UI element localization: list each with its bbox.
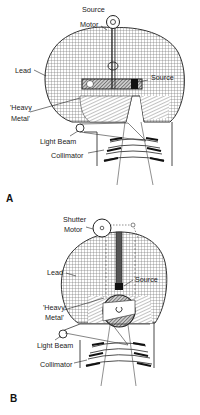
source-motor-a: [107, 16, 120, 29]
label-collimator-a: Collimator: [51, 151, 84, 160]
panel-label-a: A: [6, 193, 13, 204]
source-b: [115, 283, 123, 290]
panel-label-b: B: [10, 393, 17, 404]
source-rod-b: [116, 232, 122, 284]
label-heavy-metal-a-2: Metal': [11, 114, 31, 123]
collimator-b: [86, 343, 152, 366]
label-collimator-b: Collimator: [40, 360, 73, 369]
label-heavy-metal-a-1: 'Heavy: [10, 103, 32, 112]
label-shutter-motor-b-2: Motor: [64, 225, 83, 234]
collimator-a: [104, 138, 164, 161]
label-heavy-metal-b-2: Metal': [45, 313, 65, 322]
label-source-motor-a-1: Source: [82, 5, 105, 14]
label-shutter-motor-b-1: Shutter: [63, 215, 87, 224]
label-lead-b: Lead: [47, 268, 63, 277]
label-heavy-metal-b-1: 'Heavy: [43, 303, 65, 312]
label-source-motor-a-2: Motor: [80, 20, 99, 29]
shutter-motor-b: [93, 219, 111, 237]
teletherapy-head-diagram: Source Motor Lead Source 'Heavy Metal' L…: [0, 0, 200, 415]
label-lead-a: Lead: [15, 66, 31, 75]
label-source-b: Source: [135, 275, 158, 284]
label-light-beam-a: Light Beam: [40, 137, 76, 146]
label-light-beam-b: Light Beam: [37, 341, 73, 350]
label-source-a: Source: [151, 73, 174, 82]
heavy-metal-a: [80, 96, 132, 122]
source-a: [131, 79, 138, 89]
light-beam-lamp-a: [76, 124, 84, 132]
panel-a: Source Motor Lead Source 'Heavy Metal' L…: [6, 5, 184, 204]
panel-b: Shutter Motor Lead Source 'Heavy Metal' …: [10, 215, 167, 404]
